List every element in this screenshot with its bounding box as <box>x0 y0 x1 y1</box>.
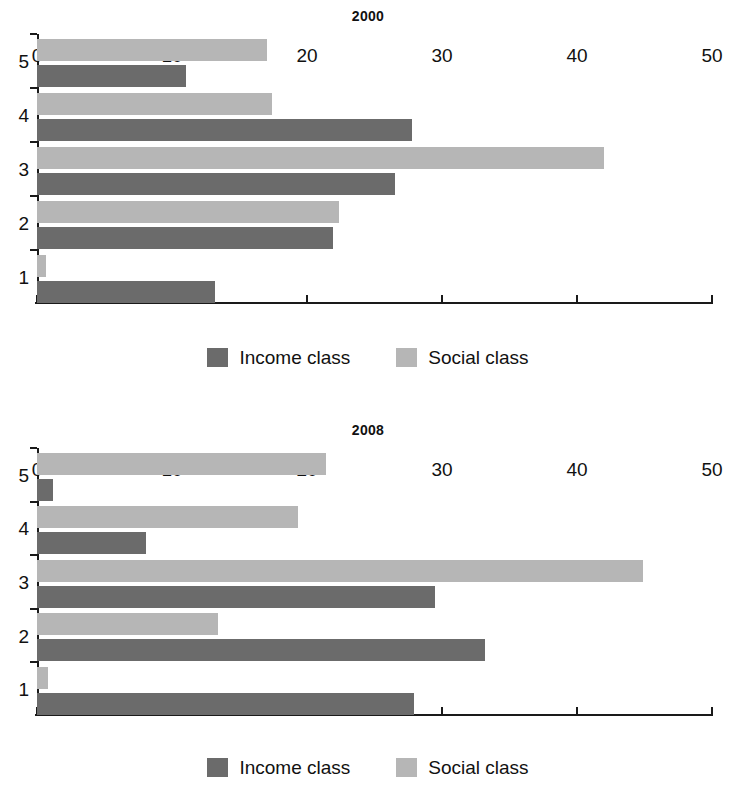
x-axis-tick <box>711 295 713 304</box>
legend-label-social: Social class <box>428 348 528 367</box>
bar-income-class-5 <box>37 65 186 87</box>
bar-social-class-2 <box>37 201 339 223</box>
x-axis-tick <box>711 707 713 716</box>
y-axis-tick <box>30 195 37 197</box>
legend-swatch-social-icon <box>396 758 417 777</box>
chart-panel-2008: 2008 0102030405012345 Income class Socia… <box>0 400 736 791</box>
y-axis-tick <box>30 141 37 143</box>
x-axis-tick <box>441 295 443 304</box>
bar-social-class-4 <box>37 93 272 115</box>
y-axis-category-label: 5 <box>18 465 29 484</box>
bar-social-class-1 <box>37 255 46 277</box>
y-axis-tick <box>30 661 37 663</box>
chart-title-2000: 2000 <box>0 8 736 24</box>
bar-income-class-2 <box>37 227 333 249</box>
plot-area-2008: 0102030405012345 <box>37 448 712 716</box>
plot-area-2000: 0102030405012345 <box>37 34 712 304</box>
y-axis-category-label: 4 <box>18 106 29 125</box>
y-axis-category-label: 4 <box>18 519 29 538</box>
legend-label-income: Income class <box>239 758 350 777</box>
y-axis-category-label: 3 <box>18 160 29 179</box>
x-axis-tick-label: 20 <box>296 46 317 65</box>
legend-swatch-social-icon <box>396 348 417 367</box>
legend-2000: Income class Social class <box>0 348 736 367</box>
bar-income-class-4 <box>37 119 412 141</box>
legend-item-income-2000: Income class <box>207 348 350 367</box>
y-axis-tick <box>30 33 37 35</box>
y-axis-category-label: 2 <box>18 626 29 645</box>
x-axis-tick <box>441 707 443 716</box>
y-axis-tick <box>30 447 37 449</box>
x-axis-tick <box>576 295 578 304</box>
x-axis-tick <box>306 295 308 304</box>
legend-item-social-2000: Social class <box>396 348 528 367</box>
legend-label-income: Income class <box>239 348 350 367</box>
y-axis-tick <box>30 608 37 610</box>
chart-panel-2000: 2000 0102030405012345 Income class Socia… <box>0 0 736 400</box>
legend-item-social-2008: Social class <box>396 758 528 777</box>
bar-social-class-2 <box>37 613 218 635</box>
x-axis-tick-label: 30 <box>431 460 452 479</box>
legend-label-social: Social class <box>428 758 528 777</box>
bar-social-class-3 <box>37 147 604 169</box>
bar-income-class-5 <box>37 479 53 501</box>
bar-income-class-3 <box>37 586 435 608</box>
bar-social-class-5 <box>37 453 326 475</box>
bar-social-class-4 <box>37 506 298 528</box>
bar-social-class-3 <box>37 560 643 582</box>
y-axis-category-label: 2 <box>18 214 29 233</box>
bar-income-class-1 <box>37 693 414 715</box>
y-axis-category-label: 1 <box>18 268 29 287</box>
bar-income-class-2 <box>37 639 485 661</box>
legend-2008: Income class Social class <box>0 758 736 777</box>
x-axis-tick-label: 30 <box>431 46 452 65</box>
legend-swatch-income-icon <box>207 348 228 367</box>
bar-income-class-4 <box>37 532 146 554</box>
bar-social-class-5 <box>37 39 267 61</box>
bar-income-class-1 <box>37 281 215 303</box>
y-axis-category-label: 1 <box>18 680 29 699</box>
chart-title-2008: 2008 <box>0 422 736 438</box>
x-axis-tick-label: 50 <box>701 460 722 479</box>
x-axis-tick-label: 40 <box>566 46 587 65</box>
y-axis-category-label: 5 <box>18 52 29 71</box>
legend-item-income-2008: Income class <box>207 758 350 777</box>
legend-swatch-income-icon <box>207 758 228 777</box>
y-axis-tick <box>30 249 37 251</box>
bar-income-class-3 <box>37 173 395 195</box>
x-axis-tick-label: 50 <box>701 46 722 65</box>
bar-social-class-1 <box>37 667 48 689</box>
y-axis-tick <box>30 87 37 89</box>
x-axis-tick <box>576 707 578 716</box>
y-axis-category-label: 3 <box>18 573 29 592</box>
y-axis-tick <box>30 554 37 556</box>
y-axis-tick <box>30 501 37 503</box>
x-axis-tick-label: 40 <box>566 460 587 479</box>
